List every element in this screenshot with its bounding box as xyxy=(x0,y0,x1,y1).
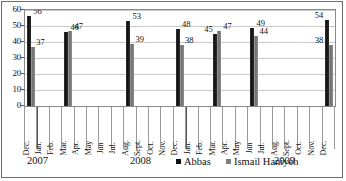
y-axis-tick-label: 20 xyxy=(12,69,21,78)
bar-ismail-haniyeh xyxy=(31,47,35,106)
data-label-ismail-haniyeh: 47 xyxy=(223,22,232,31)
year-separator xyxy=(186,107,187,149)
data-label-abbas: 54 xyxy=(315,11,324,20)
data-label-abbas: 53 xyxy=(132,12,141,21)
data-label-ismail-haniyeh: 38 xyxy=(185,36,194,45)
y-axis: 0102030405060 xyxy=(0,9,24,109)
data-label-abbas: 56 xyxy=(33,9,42,16)
legend-swatch-icon-abbas xyxy=(176,159,181,164)
x-axis-months: Dec.Jan.Feb.Mar.Apr.MayJunJul.Aug.Sept.O… xyxy=(24,107,336,149)
legend-swatch-icon-ismail-haniyeh xyxy=(226,159,231,164)
chart-footer: 2007 2008 2009 Abbas Ismail Haniyeh xyxy=(0,152,346,177)
year-label-2008: 2008 xyxy=(130,155,151,166)
legend-item-abbas[interactable]: Abbas xyxy=(176,155,211,167)
chart-figure: 0102030405060 56374647533948384547494454… xyxy=(0,0,346,181)
data-label-ismail-haniyeh: 38 xyxy=(315,36,324,45)
data-label-ismail-haniyeh: 37 xyxy=(36,38,45,47)
y-axis-tick-label: 60 xyxy=(12,5,21,14)
bar-ismail-haniyeh xyxy=(217,31,221,106)
legend-label-abbas: Abbas xyxy=(184,156,211,167)
year-label-2007: 2007 xyxy=(27,155,48,166)
bar-ismail-haniyeh xyxy=(130,44,134,106)
bar-ismail-haniyeh xyxy=(180,45,184,106)
bar-ismail-haniyeh xyxy=(254,36,258,106)
year-separator xyxy=(37,107,38,149)
y-axis-tick-label: 50 xyxy=(12,21,21,30)
data-label-ismail-haniyeh: 44 xyxy=(259,27,268,36)
legend-item-ismail-haniyeh[interactable]: Ismail Haniyeh xyxy=(226,155,298,167)
bar-ismail-haniyeh xyxy=(68,31,72,106)
data-label-abbas: 45 xyxy=(204,25,213,34)
data-label-ismail-haniyeh: 39 xyxy=(135,35,144,44)
y-axis-tick-label: 40 xyxy=(12,37,21,46)
legend-label-ismail-haniyeh: Ismail Haniyeh xyxy=(234,156,298,167)
plot-area: 5637464753394838454749445438 xyxy=(24,9,336,107)
gridline xyxy=(25,10,335,11)
data-label-abbas: 48 xyxy=(182,20,191,29)
data-label-ismail-haniyeh: 47 xyxy=(74,22,83,31)
x-axis-month-cell: Dec. xyxy=(323,107,335,149)
y-axis-tick-label: 30 xyxy=(12,53,21,62)
y-axis-tick-label: 10 xyxy=(12,85,21,94)
bar-ismail-haniyeh xyxy=(329,45,333,106)
